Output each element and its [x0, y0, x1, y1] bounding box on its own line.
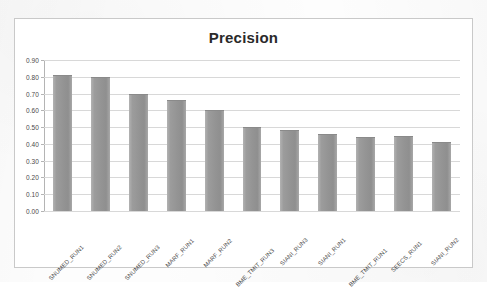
bar [432, 142, 451, 211]
bar [205, 110, 224, 211]
x-axis-tick-label: SNUMED_RUN2 [118, 211, 155, 248]
bar [91, 77, 110, 211]
x-axis-tick-label-text: SIANI_RUN1 [317, 237, 347, 267]
y-axis-tick [41, 60, 44, 61]
x-axis-tick-label: BME_TMIT_RUN3 [271, 211, 312, 252]
y-axis-tick-label: 0.40 [26, 140, 39, 147]
bar [280, 130, 299, 211]
plot-area: 0.900.800.700.600.500.400.300.200.100.00… [44, 60, 460, 211]
x-axis-tick-label: MARF_RUN1 [191, 211, 222, 242]
bar [318, 134, 337, 211]
y-axis-tick [41, 127, 44, 128]
gridline [44, 211, 460, 212]
y-axis-tick [41, 144, 44, 145]
y-axis-tick [41, 177, 44, 178]
x-axis-tick-label: SIANI_RUN1 [342, 211, 372, 241]
y-axis-tick-label: 0.60 [26, 107, 39, 114]
chart-title: Precision [15, 29, 472, 46]
bar [129, 94, 148, 211]
bar [53, 75, 72, 211]
bar [394, 136, 413, 211]
y-axis-tick [41, 194, 44, 195]
bar [356, 137, 375, 211]
y-axis-tick-label: 0.50 [26, 124, 39, 131]
y-axis-tick [41, 110, 44, 111]
y-axis-line [44, 60, 45, 211]
y-axis-tick [41, 161, 44, 162]
x-axis-tick-label: SEECS_RUN1 [419, 211, 452, 244]
x-axis-tick-label-text: MARF_RUN2 [203, 238, 234, 269]
x-axis-tick-label-text: SIANI_RUN2 [430, 237, 460, 267]
chart-frame: Precision 0.900.800.700.600.500.400.300.… [14, 18, 473, 268]
y-axis-tick [41, 211, 44, 212]
y-axis-tick-label: 0.20 [26, 174, 39, 181]
y-axis-tick-label: 0.70 [26, 90, 39, 97]
y-axis-tick-label: 0.30 [26, 157, 39, 164]
gridline [44, 60, 460, 61]
y-axis-tick [41, 94, 44, 95]
x-axis-tick-label-text: MARF_RUN1 [165, 238, 196, 269]
y-axis-tick-label: 0.10 [26, 191, 39, 198]
bar [243, 127, 262, 211]
y-axis-tick [41, 77, 44, 78]
y-axis-tick-label: 0.90 [26, 57, 39, 64]
y-axis-tick-label: 0.00 [26, 208, 39, 215]
x-axis-tick-label: SNUMED_RUN1 [81, 211, 118, 248]
bar [167, 100, 186, 211]
x-axis-tick-label: MARF_RUN2 [229, 211, 260, 242]
y-axis-tick-label: 0.80 [26, 73, 39, 80]
